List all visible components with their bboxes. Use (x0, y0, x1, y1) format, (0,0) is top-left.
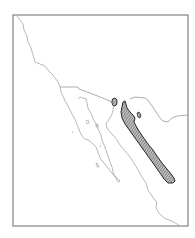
range-map (0, 0, 195, 238)
map-frame (13, 15, 188, 226)
small-range-north (112, 98, 117, 106)
